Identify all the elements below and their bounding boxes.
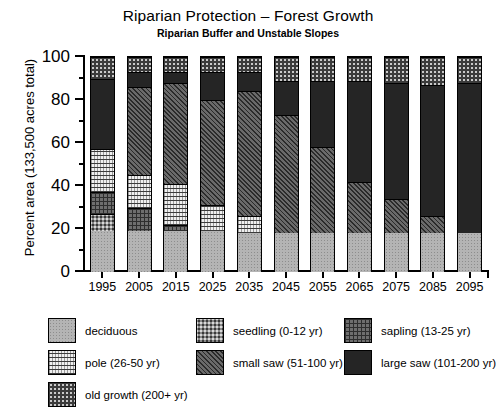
bar-segment-old-growth (238, 57, 261, 72)
y-axis-tick-label: 80 (24, 91, 70, 108)
x-axis-tick (322, 272, 324, 278)
x-axis-tick (285, 272, 287, 278)
large-saw-swatch (344, 350, 372, 375)
x-axis-tick-label: 2015 (162, 280, 190, 294)
bar-2065[interactable] (347, 56, 372, 271)
seedling-swatch (196, 318, 224, 343)
x-axis-tick-label: 2005 (125, 280, 153, 294)
bar-2085[interactable] (420, 56, 445, 271)
legend-item-pole[interactable]: pole (26-50 yr) (48, 350, 160, 375)
legend-item-large-saw[interactable]: large saw (101-200 yr) (344, 350, 496, 375)
bar-segment-deciduous (238, 233, 261, 272)
legend-label: seedling (0-12 yr) (233, 325, 322, 337)
bar-segment-old-growth (128, 57, 151, 72)
legend-item-small-saw[interactable]: small saw (51-100 yr) (196, 350, 343, 375)
sapling-swatch (344, 318, 372, 343)
bar-2055[interactable] (310, 56, 335, 271)
bar-segment-large-saw (91, 79, 114, 150)
x-axis-tick-label: 2045 (272, 280, 300, 294)
legend-item-deciduous[interactable]: deciduous (48, 318, 137, 343)
bar-segment-small-saw (128, 87, 151, 175)
bar-2035[interactable] (237, 56, 262, 271)
bar-segment-deciduous (275, 233, 298, 272)
legend-item-seedling[interactable]: seedling (0-12 yr) (196, 318, 322, 343)
chart-subtitle: Riparian Buffer and Unstable Slopes (0, 27, 496, 39)
bar-segment-old-growth (421, 57, 444, 85)
bar-segment-large-saw (201, 72, 224, 100)
legend-label: old growth (200+ yr) (85, 389, 188, 401)
bar-segment-small-saw (311, 147, 334, 233)
bar-1995[interactable] (90, 56, 115, 271)
deciduous-swatch (48, 318, 76, 343)
x-axis-tick (138, 272, 140, 278)
bar-2045[interactable] (274, 56, 299, 271)
chart-legend: deciduousseedling (0-12 yr)sapling (13-2… (48, 318, 488, 410)
old-growth-swatch (48, 382, 76, 407)
chart-title: Riparian Protection – Forest Growth (0, 7, 496, 25)
y-axis-minor-tick (79, 249, 84, 251)
bar-segment-small-saw (385, 199, 408, 233)
x-axis-tick (395, 272, 397, 278)
x-axis-tick-label: 1995 (88, 280, 116, 294)
bar-segment-large-saw (238, 72, 261, 91)
bar-2075[interactable] (384, 56, 409, 271)
bar-segment-old-growth (275, 57, 298, 81)
x-axis-tick (101, 272, 103, 278)
bar-2005[interactable] (127, 56, 152, 271)
bar-2095[interactable] (457, 56, 482, 271)
bar-segment-old-growth (201, 57, 224, 72)
bar-segment-small-saw (275, 115, 298, 233)
y-axis-tick-label: 100 (24, 48, 70, 65)
bar-segment-pole (164, 184, 187, 225)
legend-label: small saw (51-100 yr) (233, 357, 343, 369)
x-axis-tick-label: 2035 (235, 280, 263, 294)
bar-segment-deciduous (348, 233, 371, 272)
bar-segment-small-saw (238, 91, 261, 216)
y-axis-label: Percent area (133,500 acres total) (22, 33, 37, 283)
bar-segment-old-growth (311, 57, 334, 81)
plot-area: 0204060801001995200520152025203520452055… (84, 56, 488, 271)
pole-swatch (48, 350, 76, 375)
small-saw-swatch (196, 350, 224, 375)
bar-segment-large-saw (128, 72, 151, 87)
x-axis-tick-label: 2085 (419, 280, 447, 294)
bar-segment-deciduous (385, 233, 408, 272)
bar-segment-small-saw (421, 216, 444, 233)
legend-item-old-growth[interactable]: old growth (200+ yr) (48, 382, 188, 407)
bar-segment-old-growth (164, 57, 187, 72)
bar-segment-deciduous (421, 233, 444, 272)
bar-segment-seedling (91, 214, 114, 231)
bar-segment-small-saw (348, 182, 371, 234)
bar-segment-old-growth (91, 57, 114, 79)
x-axis-tick-label: 2065 (346, 280, 374, 294)
bar-segment-large-saw (385, 83, 408, 199)
bar-segment-small-saw (201, 100, 224, 205)
bar-segment-sapling (164, 225, 187, 231)
x-axis-tick-label: 2025 (199, 280, 227, 294)
y-axis-minor-tick (79, 163, 84, 165)
bar-segment-sapling (91, 192, 114, 214)
y-axis-tick (75, 184, 84, 186)
legend-item-sapling[interactable]: sapling (13-25 yr) (344, 318, 470, 343)
y-axis-tick (75, 55, 84, 57)
x-axis-tick (175, 272, 177, 278)
legend-label: sapling (13-25 yr) (381, 325, 470, 337)
x-axis-tick (469, 272, 471, 278)
bar-segment-large-saw (421, 85, 444, 216)
y-axis-tick (75, 98, 84, 100)
x-axis-tick-label: 2055 (309, 280, 337, 294)
x-axis-tick-label: 2095 (456, 280, 484, 294)
bar-segment-large-saw (348, 81, 371, 182)
y-axis-tick-label: 40 (24, 177, 70, 194)
legend-label: pole (26-50 yr) (85, 357, 160, 369)
bar-segment-small-saw (164, 83, 187, 184)
y-axis-tick-label: 20 (24, 220, 70, 237)
bar-2025[interactable] (200, 56, 225, 271)
bar-2015[interactable] (163, 56, 188, 271)
bar-segment-old-growth (458, 57, 481, 83)
bar-segment-deciduous (128, 231, 151, 272)
bar-segment-pole (201, 205, 224, 231)
bar-segment-pole (91, 149, 114, 192)
y-axis-minor-tick (79, 206, 84, 208)
bar-segment-deciduous (91, 231, 114, 272)
